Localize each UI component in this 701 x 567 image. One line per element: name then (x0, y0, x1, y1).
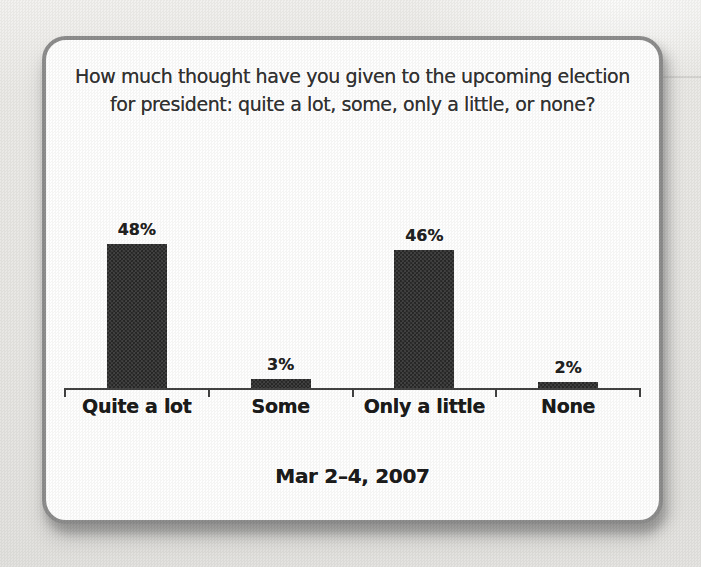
bar (538, 382, 598, 388)
category-label: Quite a lot (62, 395, 212, 417)
bar (107, 244, 167, 388)
scanned-page-background: How much thought have you given to the u… (0, 0, 701, 567)
bar (251, 379, 311, 388)
bar-chart: 48%Quite a lot3%Some46%Only a little2%No… (46, 40, 659, 520)
poll-chart-card: How much thought have you given to the u… (42, 36, 663, 524)
bar-value-label: 46% (384, 226, 464, 246)
category-label: Only a little (349, 395, 499, 417)
scan-artifact-line (659, 76, 701, 78)
bar-value-label: 48% (97, 220, 177, 240)
category-label: None (493, 395, 643, 417)
poll-date-caption: Mar 2–4, 2007 (46, 464, 659, 488)
bar (394, 250, 454, 388)
category-label: Some (206, 395, 356, 417)
bar-value-label: 2% (528, 358, 608, 378)
bar-value-label: 3% (241, 355, 321, 375)
